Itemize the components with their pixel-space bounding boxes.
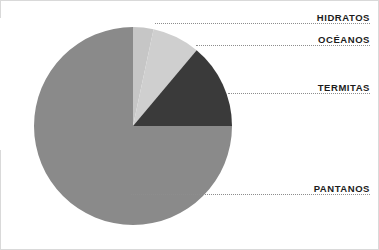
slice-label-termitas: TERMITAS [0,82,370,93]
slice-label-ocanos: OCÉANOS [0,34,370,45]
leader-line-termitas [228,93,370,94]
leader-line-pantanos [131,194,370,195]
slice-label-hidratos: HIDRATOS [0,12,370,23]
slice-label-pantanos: PANTANOS [0,183,370,194]
leader-line-hidratos [155,23,370,24]
chart-plot-area: HIDRATOSOCÉANOSTERMITASPANTANOS [0,0,379,250]
pie-chart-figure: HIDRATOSOCÉANOSTERMITASPANTANOS [0,0,379,250]
leader-line-ocanos [196,45,370,46]
